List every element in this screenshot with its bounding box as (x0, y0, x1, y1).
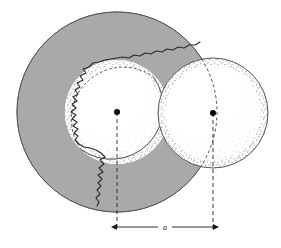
geometry-diagram: a (0, 0, 281, 248)
left-center-dot (114, 109, 120, 115)
figure-root: a (0, 0, 281, 248)
dimension-label: a (163, 223, 167, 232)
right-center-dot (210, 110, 216, 116)
